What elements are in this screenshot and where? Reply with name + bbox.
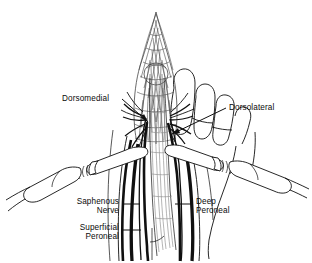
- label-dorsolateral: Dorsolateral: [229, 103, 274, 112]
- label-deep-peroneal-line2: Peroneal: [196, 206, 230, 215]
- label-superficial-peroneal-line1: Superficial: [80, 223, 119, 232]
- label-deep-peroneal-line1: Deep: [196, 197, 216, 206]
- label-dorsomedial: Dorsomedial: [62, 94, 109, 103]
- label-saphenous-nerve-line1: Saphenous: [77, 197, 119, 206]
- label-saphenous-nerve-line2: Nerve: [97, 206, 120, 215]
- label-superficial-peroneal-line2: Peroneal: [85, 232, 119, 241]
- anatomical-illustration: Dorsomedial Dorsolateral Saphenous Nerve…: [0, 0, 312, 263]
- illustration-canvas: Dorsomedial Dorsolateral Saphenous Nerve…: [0, 0, 312, 263]
